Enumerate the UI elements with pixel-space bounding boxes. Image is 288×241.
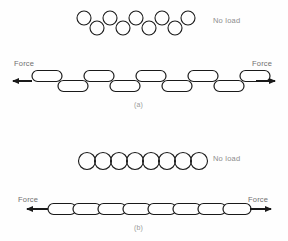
- unloaded-circle-a-9: [181, 11, 195, 25]
- force-label-right-a: Force: [252, 60, 272, 68]
- unloaded-circle-a-4: [116, 21, 130, 35]
- unloaded-circle-a-6: [142, 21, 156, 35]
- unloaded-circle-b-5: [143, 153, 160, 170]
- chain-link-b-1: [48, 204, 76, 215]
- no-load-label-b: No load: [213, 155, 240, 163]
- unloaded-circle-b-6: [159, 153, 176, 170]
- unloaded-circle-b-8: [191, 153, 208, 170]
- chain-link-a-5: [136, 71, 166, 82]
- chain-link-b-5: [148, 204, 176, 215]
- unloaded-circle-b-4: [127, 153, 144, 170]
- unloaded-circle-b-1: [79, 153, 96, 170]
- unloaded-circle-a-3: [103, 11, 117, 25]
- no-load-label-a: No load: [213, 17, 240, 25]
- chain-link-b-7: [198, 204, 226, 215]
- unloaded-circle-a-7: [155, 11, 169, 25]
- panel-caption-a: (a): [134, 101, 143, 108]
- panel-caption-b: (b): [134, 224, 143, 231]
- unloaded-circle-b-2: [95, 153, 112, 170]
- chain-link-a-7: [188, 71, 218, 82]
- chain-link-a-2: [58, 81, 88, 92]
- panel-b-unloaded-circles: [79, 153, 208, 170]
- chain-link-b-6: [173, 204, 201, 215]
- unloaded-circle-a-2: [90, 21, 104, 35]
- force-label-left-a: Force: [14, 60, 34, 68]
- unloaded-circle-a-8: [168, 21, 182, 35]
- chain-link-a-9: [240, 71, 270, 82]
- force-label-right-b: Force: [248, 196, 268, 204]
- unloaded-circle-a-1: [77, 11, 91, 25]
- force-label-left-b: Force: [18, 196, 38, 204]
- chain-link-b-4: [123, 204, 151, 215]
- chain-link-b-8: [223, 204, 251, 215]
- chain-link-a-3: [84, 71, 114, 82]
- chain-link-a-6: [162, 81, 192, 92]
- chain-link-b-3: [98, 204, 126, 215]
- unloaded-circle-b-3: [111, 153, 128, 170]
- panel-a-loaded-chain-links: [32, 71, 270, 92]
- unloaded-circle-a-5: [129, 11, 143, 25]
- chain-link-diagram: [0, 0, 288, 241]
- chain-link-a-8: [214, 81, 244, 92]
- chain-link-a-4: [110, 81, 140, 92]
- chain-link-b-2: [73, 204, 101, 215]
- unloaded-circle-b-7: [175, 153, 192, 170]
- panel-b-loaded-chain-links: [48, 204, 251, 215]
- panel-a-unloaded-circles: [77, 11, 195, 35]
- chain-link-a-1: [32, 71, 62, 82]
